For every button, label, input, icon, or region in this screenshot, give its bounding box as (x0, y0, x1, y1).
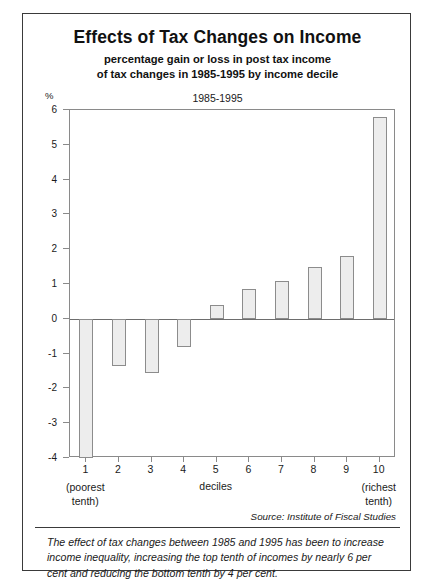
bar-decile-1 (79, 319, 93, 458)
y-tick-label--1: -1 (31, 347, 57, 358)
y-tick-label--2: -2 (31, 382, 57, 393)
bar-decile-3 (145, 319, 159, 373)
y-tick-label--3: -3 (31, 417, 57, 428)
y-tick-label-1: 1 (31, 278, 57, 289)
x-axis-label: deciles (171, 480, 261, 492)
x-tick-9 (346, 457, 347, 462)
x-caption-poorest-line1: (poorest (42, 480, 128, 494)
chart-page: Effects of Tax Changes on Income percent… (0, 0, 433, 584)
y-tick-label-5: 5 (31, 138, 57, 149)
plot-area (69, 109, 395, 457)
chart-frame: Effects of Tax Changes on Income percent… (22, 13, 411, 571)
bar-decile-5 (210, 305, 224, 319)
x-tick-2 (118, 457, 119, 462)
y-tick-label-4: 4 (31, 173, 57, 184)
y-tick-label--4: -4 (31, 452, 57, 463)
chart: % 1985-1995 6543210-1-2-3-4 12345678910 … (23, 14, 412, 572)
x-caption-poorest: (poorest tenth) (42, 480, 128, 508)
x-tick-1 (85, 457, 86, 462)
y-tick-label-6: 6 (31, 104, 57, 115)
footer-divider (35, 527, 400, 528)
bar-decile-8 (308, 267, 322, 319)
footnote-text: The effect of tax changes between 1985 a… (47, 535, 391, 581)
bar-decile-9 (340, 256, 354, 319)
x-tick-5 (216, 457, 217, 462)
x-tick-6 (248, 457, 249, 462)
x-caption-richest-line2: tenth) (336, 494, 422, 508)
bar-decile-7 (275, 281, 289, 319)
bar-decile-4 (177, 319, 191, 347)
x-tick-4 (183, 457, 184, 462)
bar-series (70, 110, 394, 456)
x-tick-3 (151, 457, 152, 462)
x-tick-7 (281, 457, 282, 462)
x-caption-richest: (richest tenth) (336, 480, 422, 508)
x-tick-10 (379, 457, 380, 462)
bar-decile-2 (112, 319, 126, 366)
source-note: Source: Institute of Fiscal Studies (251, 511, 396, 522)
y-tick-label-2: 2 (31, 243, 57, 254)
series-label: 1985-1995 (23, 92, 412, 104)
y-tick-label-3: 3 (31, 208, 57, 219)
bar-decile-10 (373, 117, 387, 319)
y-tick--4 (63, 457, 69, 458)
x-caption-richest-line1: (richest (336, 480, 422, 494)
bar-decile-6 (242, 289, 256, 319)
x-caption-poorest-line2: tenth) (42, 494, 128, 508)
x-tick-label-10: 10 (359, 463, 399, 475)
y-tick-label-0: 0 (31, 312, 57, 323)
x-tick-8 (314, 457, 315, 462)
